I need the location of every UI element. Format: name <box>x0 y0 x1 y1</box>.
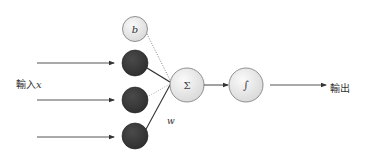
input-variable: x <box>36 79 42 90</box>
input-node-2 <box>122 87 148 113</box>
activation-symbol: ∫ <box>243 79 249 92</box>
bias-symbol: b <box>132 24 138 35</box>
sum-symbol: Σ <box>183 80 190 91</box>
neuron-diagram: b Σ ∫ <box>0 0 366 158</box>
weight-label: w <box>167 116 175 126</box>
output-label: 輸出 <box>330 80 350 95</box>
bias-edge <box>147 34 170 80</box>
input-node-1 <box>122 50 148 76</box>
input-label-text: 輸入 <box>16 79 36 90</box>
weight-edge-1 <box>147 68 170 82</box>
input-node-3 <box>122 123 148 149</box>
input-label: 輸入x <box>16 76 42 91</box>
